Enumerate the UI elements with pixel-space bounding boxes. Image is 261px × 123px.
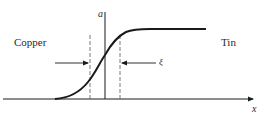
x-axis-label: x bbox=[252, 104, 256, 114]
concentration-curve bbox=[55, 29, 206, 99]
diagram-canvas bbox=[0, 0, 261, 123]
xi-width-label: ξ bbox=[159, 58, 163, 67]
tin-label: Tin bbox=[221, 37, 236, 48]
interdiffusion-profile-diagram: Copper Tin a x ξ bbox=[0, 0, 261, 123]
a-axis-label: a bbox=[98, 9, 103, 19]
copper-label: Copper bbox=[14, 37, 46, 48]
